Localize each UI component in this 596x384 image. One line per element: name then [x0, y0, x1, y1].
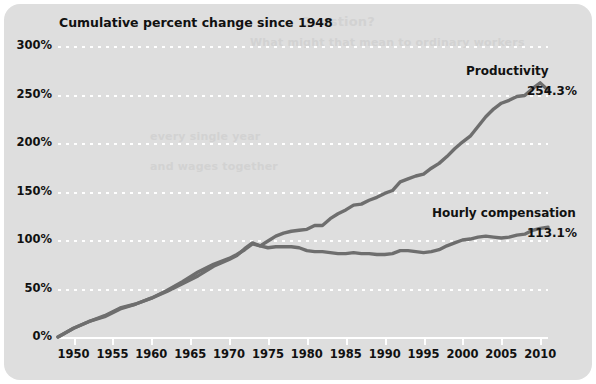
productivity-label: Productivity — [466, 64, 549, 78]
hourly-compensation-end-value: 113.1% — [527, 226, 577, 240]
chart-figure: Question? What might that mean to ordina… — [0, 0, 596, 384]
productivity-end-value: 254.3% — [527, 84, 577, 98]
series-lines — [0, 0, 596, 384]
hourly-compensation-line — [58, 227, 548, 337]
hourly-compensation-label: Hourly compensation — [432, 206, 576, 220]
